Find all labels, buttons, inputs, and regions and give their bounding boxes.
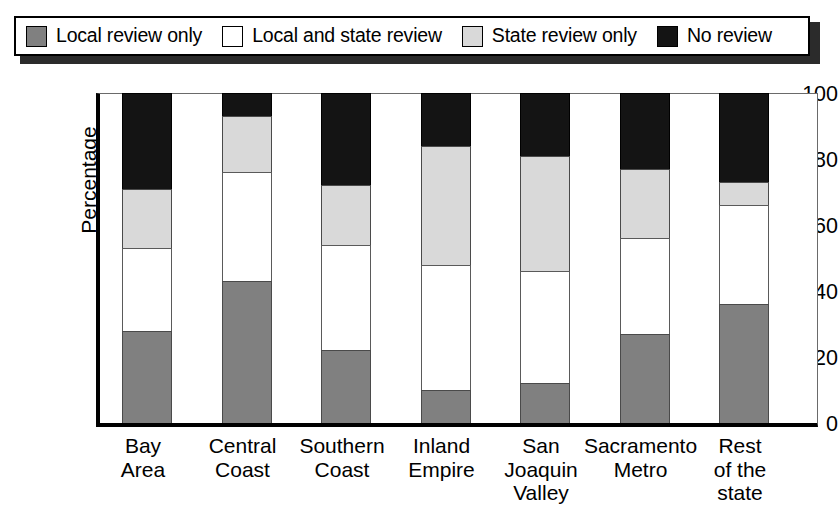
x-axis-label-line: Valley — [466, 481, 616, 505]
bar-segment-state-review-only[interactable] — [421, 146, 471, 265]
bar-segment-local-and-state-review[interactable] — [620, 238, 670, 334]
bar-segment-local-and-state-review[interactable] — [122, 248, 172, 331]
bar-segment-local-review-only[interactable] — [620, 334, 670, 423]
bar-segment-no-review[interactable] — [122, 93, 172, 189]
bar-segment-state-review-only[interactable] — [122, 189, 172, 248]
x-axis-label-line: of the — [665, 458, 815, 482]
plot-area — [96, 93, 818, 427]
bar-segment-local-and-state-review[interactable] — [321, 245, 371, 351]
bar-segment-no-review[interactable] — [719, 93, 769, 182]
bar-segment-local-review-only[interactable] — [321, 350, 371, 423]
bar-segment-no-review[interactable] — [321, 93, 371, 185]
bar-segment-state-review-only[interactable] — [520, 156, 570, 272]
bar-bay-area[interactable] — [122, 93, 172, 423]
bar-segment-local-review-only[interactable] — [719, 304, 769, 423]
stacked-bar-chart: Percentage 020406080100 BayAreaCentralCo… — [0, 0, 838, 526]
x-axis-label-line: state — [665, 481, 815, 505]
bar-segment-local-and-state-review[interactable] — [520, 271, 570, 383]
bar-segment-state-review-only[interactable] — [620, 169, 670, 238]
bar-segment-no-review[interactable] — [421, 93, 471, 146]
bar-segment-local-and-state-review[interactable] — [719, 205, 769, 304]
bar-segment-no-review[interactable] — [520, 93, 570, 156]
bar-segment-local-review-only[interactable] — [421, 390, 471, 423]
bar-inland-empire[interactable] — [421, 93, 471, 423]
bar-segment-no-review[interactable] — [620, 93, 670, 169]
bar-segment-state-review-only[interactable] — [719, 182, 769, 205]
bar-segment-state-review-only[interactable] — [222, 116, 272, 172]
x-axis-label-rest-of-the-state: Restof thestate — [665, 434, 815, 505]
bar-central-coast[interactable] — [222, 93, 272, 423]
bar-sacramento-metro[interactable] — [620, 93, 670, 423]
bar-rest-of-the-state[interactable] — [719, 93, 769, 423]
bar-segment-local-review-only[interactable] — [520, 383, 570, 423]
bar-segment-no-review[interactable] — [222, 93, 272, 116]
bar-segment-state-review-only[interactable] — [321, 185, 371, 244]
x-axis-label-line: Rest — [665, 434, 815, 458]
bar-segment-local-review-only[interactable] — [222, 281, 272, 423]
bar-segment-local-and-state-review[interactable] — [222, 172, 272, 281]
bar-southern-coast[interactable] — [321, 93, 371, 423]
bar-segment-local-review-only[interactable] — [122, 331, 172, 423]
bar-segment-local-and-state-review[interactable] — [421, 265, 471, 390]
bar-san-joaquin-valley[interactable] — [520, 93, 570, 423]
